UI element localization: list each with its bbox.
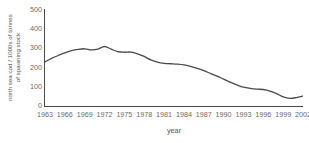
x-axis-tick-label: 1987 [196, 110, 212, 119]
x-axis-tick-label: 1996 [255, 110, 271, 119]
x-axis-tick-label: 1978 [136, 110, 152, 119]
x-axis-line [44, 106, 303, 107]
x-axis-tick-label: 1969 [77, 110, 93, 119]
plot-area [45, 10, 303, 106]
y-axis-title-line-1: north sea cod / 1000s of tonnes [5, 15, 13, 102]
x-axis-tick-label: 1975 [116, 110, 132, 119]
x-axis-tick-label: 1984 [176, 110, 192, 119]
y-axis-tick-label: 0 [38, 102, 42, 109]
data-line-svg [45, 10, 303, 106]
x-axis-tick-label: 1963 [37, 110, 53, 119]
x-axis-tick-label: 1999 [275, 110, 291, 119]
x-axis-tick-label: 1993 [235, 110, 251, 119]
x-axis-tick-labels: 1963196619691972197519781981198419871990… [45, 110, 303, 122]
y-axis-tick-label: 300 [30, 45, 42, 52]
y-axis-tick-labels: 5004003002001000 [22, 10, 42, 106]
y-axis-title-line-2: of spawning stock [13, 15, 21, 102]
y-axis-tick-label: 100 [30, 83, 42, 90]
line-chart: north sea cod / 1000s of tonnes of spawn… [0, 0, 309, 143]
y-axis-tick-label: 500 [30, 6, 42, 13]
x-axis-tick-label: 1981 [156, 110, 172, 119]
x-axis-tick-label: 1966 [57, 110, 73, 119]
x-axis-tick-label: 1972 [97, 110, 113, 119]
y-axis-tick-label: 200 [30, 64, 42, 71]
y-axis-tick-label: 400 [30, 26, 42, 33]
x-axis-tick-label: 1990 [216, 110, 232, 119]
x-axis-tick-label: 2002 [295, 110, 309, 119]
x-axis-title: year [45, 126, 303, 135]
data-series-line [45, 46, 303, 98]
